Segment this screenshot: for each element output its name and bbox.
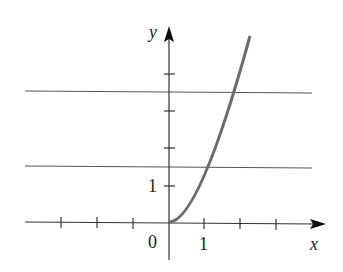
graph-canvas: y x 0 1 1	[0, 0, 343, 272]
x-tick-label-1: 1	[199, 234, 208, 254]
function-curve	[169, 36, 250, 222]
y-axis-label: y	[147, 22, 157, 42]
x-axis-label: x	[309, 234, 318, 254]
origin-label: 0	[148, 232, 157, 252]
y-tick-label-1: 1	[148, 176, 157, 196]
